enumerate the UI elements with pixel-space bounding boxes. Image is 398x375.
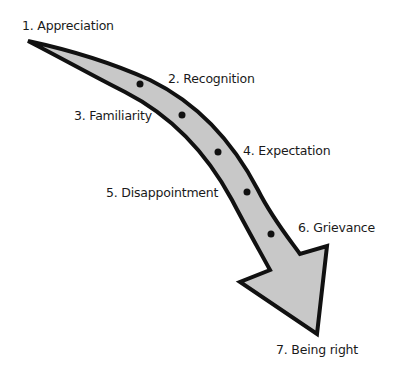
stage-dot: [244, 189, 251, 196]
stage-label-grievance: 6. Grievance: [298, 222, 375, 235]
stage-label-appreciation: 1. Appreciation: [22, 20, 114, 33]
progression-diagram: 1. Appreciation 2. Recognition 3. Famili…: [0, 0, 398, 375]
stage-dot: [268, 231, 275, 238]
stage-label-disappointment: 5. Disappointment: [106, 187, 218, 200]
stage-label-familiarity: 3. Familiarity: [74, 110, 152, 123]
stage-label-recognition: 2. Recognition: [168, 73, 255, 86]
stage-label-expectation: 4. Expectation: [243, 145, 330, 158]
stage-dot: [215, 149, 222, 156]
stage-dot: [137, 81, 144, 88]
stage-dot: [179, 112, 186, 119]
stage-label-being-right: 7. Being right: [276, 344, 358, 357]
